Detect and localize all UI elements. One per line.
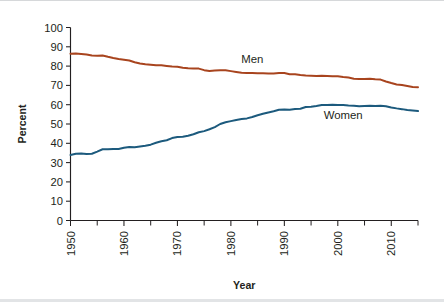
x-axis-tick-label: 1960 xyxy=(118,231,130,256)
series-label-men: Men xyxy=(241,53,263,65)
y-axis-tick-label: 50 xyxy=(51,118,63,130)
x-axis-tick-label: 2000 xyxy=(332,231,344,256)
y-axis-tick-label: 0 xyxy=(57,215,63,227)
y-axis-tick-label: 10 xyxy=(51,195,63,207)
x-axis-tick-label: 2010 xyxy=(385,231,397,256)
y-axis-title: Percent xyxy=(16,104,28,143)
y-axis-tick-label: 30 xyxy=(51,157,63,169)
series-label-women: Women xyxy=(324,109,363,121)
y-axis-tick-label: 40 xyxy=(51,137,63,149)
x-axis-tick-label: 1950 xyxy=(65,231,77,256)
y-axis-tick-label: 90 xyxy=(51,41,63,53)
y-axis-tick-label: 70 xyxy=(51,79,63,91)
line-chart: 0102030405060708090100195019601970198019… xyxy=(0,1,444,302)
series-line-women xyxy=(71,105,419,155)
x-axis-tick-label: 1980 xyxy=(225,231,237,256)
x-axis-tick-label: 1970 xyxy=(171,231,183,256)
y-axis-tick-label: 100 xyxy=(44,22,63,34)
figure-frame: 0102030405060708090100195019601970198019… xyxy=(0,0,444,302)
y-axis-tick-label: 80 xyxy=(51,60,63,72)
y-axis-tick-label: 20 xyxy=(51,176,63,188)
y-axis-tick-label: 60 xyxy=(51,99,63,111)
chart-container: 0102030405060708090100195019601970198019… xyxy=(0,1,444,302)
x-axis-tick-label: 1990 xyxy=(278,231,290,256)
x-axis-title: Year xyxy=(233,279,255,291)
